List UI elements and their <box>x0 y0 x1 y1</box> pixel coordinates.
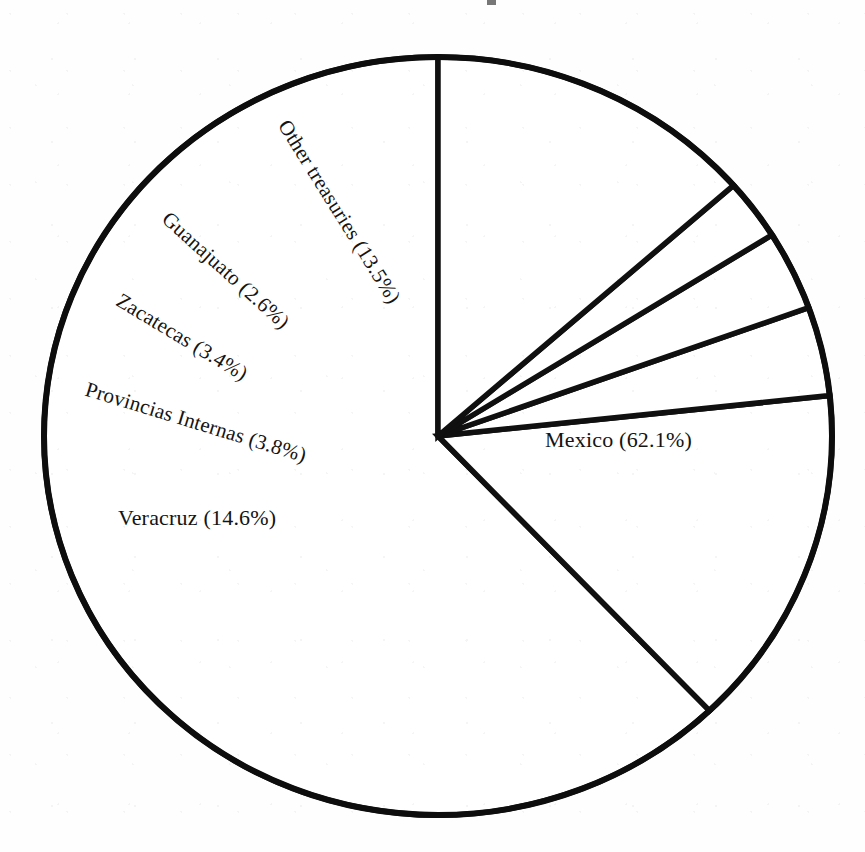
pie-label-mexico: Mexico (62.1%) <box>545 427 692 453</box>
pie-chart-figure: Mexico (62.1%)Veracruz (14.6%)Provincias… <box>0 0 865 852</box>
pie-slice-group <box>44 57 832 815</box>
pie-label-veracruz: Veracruz (14.6%) <box>118 505 276 531</box>
pie-chart-canvas <box>0 0 865 852</box>
